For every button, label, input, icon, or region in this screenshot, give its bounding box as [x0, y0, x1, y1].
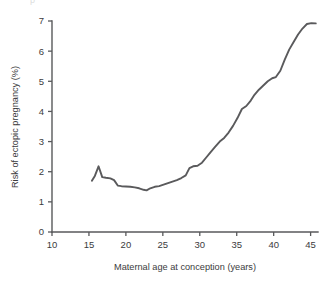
x-axis-title: Maternal age at conception (years): [114, 262, 256, 272]
chart-canvas: 01234567 1015202530354045 Maternal age a…: [0, 0, 326, 288]
x-tick-label: 20: [121, 239, 132, 250]
risk-curve: [92, 23, 316, 190]
y-tick-label: 1: [39, 196, 44, 207]
x-tick-label: 10: [47, 239, 58, 250]
x-tick-label: 35: [231, 239, 242, 250]
data-series-group: [92, 23, 316, 190]
y-axis-ticks: 01234567: [39, 15, 52, 237]
x-tick-label: 45: [305, 239, 316, 250]
y-tick-label: 6: [39, 46, 44, 57]
x-tick-label: 15: [84, 239, 95, 250]
x-axis: 1015202530354045: [47, 232, 318, 250]
y-tick-label: 4: [39, 106, 44, 117]
x-tick-label: 40: [268, 239, 279, 250]
y-tick-label: 7: [39, 15, 44, 26]
y-tick-label: 2: [39, 166, 44, 177]
y-tick-label: 5: [39, 76, 44, 87]
x-tick-label: 25: [158, 239, 169, 250]
y-axis: 01234567: [39, 15, 52, 237]
x-axis-ticks: 1015202530354045: [47, 232, 316, 250]
y-tick-label: 3: [39, 136, 44, 147]
ectopic-pregnancy-risk-chart: p 01234567 1015202530354045 Maternal age…: [0, 0, 326, 288]
y-axis-title: Risk of ectopic pregnancy (%): [10, 66, 20, 188]
y-tick-label: 0: [39, 226, 44, 237]
x-tick-label: 30: [194, 239, 205, 250]
